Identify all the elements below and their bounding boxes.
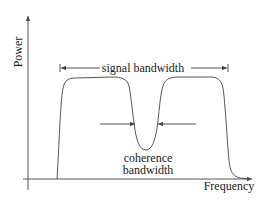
coherence-bandwidth-annotation: coherence bandwidth bbox=[100, 124, 196, 177]
frequency-response-diagram: Power Frequency signal bandwidth coheren… bbox=[0, 0, 276, 201]
coherence-label-line2: bandwidth bbox=[123, 163, 174, 177]
signal-bandwidth-label: signal bandwidth bbox=[102, 61, 184, 75]
signal-bandwidth-annotation: signal bandwidth bbox=[60, 61, 228, 75]
x-axis-label: Frequency bbox=[204, 179, 255, 193]
y-axis-label: Power bbox=[11, 37, 25, 68]
